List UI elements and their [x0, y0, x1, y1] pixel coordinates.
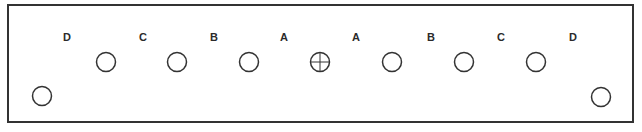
label-a-left: A	[280, 31, 288, 43]
hole-pattern-diagram: D C B A A B C D	[0, 0, 642, 132]
label-d-right: D	[569, 31, 577, 43]
label-a-right: A	[352, 31, 360, 43]
label-c-left: C	[139, 31, 147, 43]
label-d-left: D	[63, 31, 71, 43]
center-crosshair-icon	[311, 53, 330, 72]
label-c-right: C	[497, 31, 505, 43]
label-b-left: B	[210, 31, 218, 43]
label-b-right: B	[427, 31, 435, 43]
